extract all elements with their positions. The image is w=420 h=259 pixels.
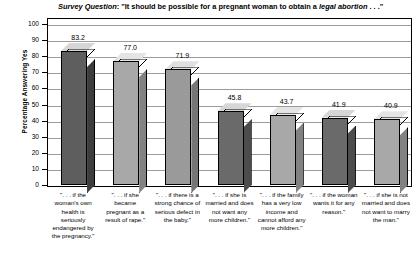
y-axis-tick-label: 10 [15, 165, 39, 172]
chart-title-body: : "It should be possible for a pregnant … [117, 2, 319, 11]
bar-front-face [113, 61, 139, 185]
bar-value-label: 45.8 [215, 94, 255, 101]
bar-top-outline [374, 111, 408, 119]
y-axis-tick-label: 20 [15, 149, 39, 156]
bar-value-label: 43.7 [267, 98, 307, 105]
bar-top-outline [61, 43, 95, 51]
bar-value-label: 41.9 [319, 101, 359, 108]
bar-value-label: 40.9 [371, 102, 411, 109]
bar-front-face [218, 111, 244, 185]
bar-side-face [400, 127, 408, 193]
x-axis-category-label: ". . . if she is married and does not wa… [205, 191, 253, 224]
bar [113, 61, 139, 185]
x-axis-category-label: ". . . if the woman wants it for any rea… [310, 191, 358, 216]
x-axis-category-label: ". . . if the woman's own health is seri… [49, 191, 97, 241]
y-axis-tick-label: 0 [15, 181, 39, 188]
bar-side-face [191, 77, 199, 193]
x-axis-category-label: ". . . if the family has a very low inco… [258, 191, 306, 232]
bar-side-face [348, 126, 356, 193]
y-axis-tick-label: 100 [15, 20, 39, 27]
bar-front-face [270, 115, 296, 185]
gridline [48, 186, 411, 187]
bar-value-label: 71.9 [162, 52, 202, 59]
y-axis-tick-label: 30 [15, 133, 39, 140]
bar [374, 119, 400, 185]
x-axis-category-labels: ". . . if the woman's own health is seri… [47, 191, 412, 257]
y-axis-tick-label: 80 [15, 52, 39, 59]
x-axis-category-label: ". . . if there is a strong chance of se… [153, 191, 201, 224]
bar-side-face [244, 119, 252, 193]
x-axis-category-label: ". . . if she became pregnant as a resul… [101, 191, 149, 224]
gridline [48, 89, 411, 90]
bar [218, 111, 244, 185]
bar [61, 51, 87, 185]
gridline [48, 57, 411, 58]
bar-value-label: 77.0 [110, 44, 150, 51]
x-axis-category-label: ". . . if she is not married and does no… [362, 191, 410, 224]
bar [270, 115, 296, 185]
chart-title-suffix: . . ." [367, 2, 383, 11]
y-axis-tick-label: 40 [15, 117, 39, 124]
bar-front-face [374, 119, 400, 185]
bar-side-face [296, 123, 304, 193]
y-axis-tick-label: 90 [15, 36, 39, 43]
bar [165, 69, 191, 185]
bar-front-face [61, 51, 87, 185]
gridline [48, 73, 411, 74]
chart-title-prefix: Survey Question [58, 2, 117, 11]
bar-top-outline [270, 107, 304, 115]
bar-value-label: 83.2 [58, 34, 98, 41]
chart-title-emphasis: legal abortion [319, 2, 367, 11]
gridline [48, 25, 411, 26]
bar-side-face [87, 59, 95, 193]
plot-area: 83.277.071.945.843.741.940.9 [47, 18, 412, 187]
bar-side-face [139, 69, 147, 193]
bar-front-face [165, 69, 191, 185]
bar-top-outline [113, 53, 147, 61]
bar-top-outline [218, 103, 252, 111]
bar-top-outline [165, 61, 199, 69]
bar-front-face [322, 118, 348, 185]
gridline [48, 41, 411, 42]
bar [322, 118, 348, 185]
y-axis-tick-label: 50 [15, 101, 39, 108]
chart-container: Survey Question: "It should be possible … [0, 0, 420, 259]
bar-top-outline [322, 110, 356, 118]
chart-title: Survey Question: "It should be possible … [58, 2, 414, 12]
y-axis-tick-label: 60 [15, 84, 39, 91]
y-axis-tick-label: 70 [15, 68, 39, 75]
